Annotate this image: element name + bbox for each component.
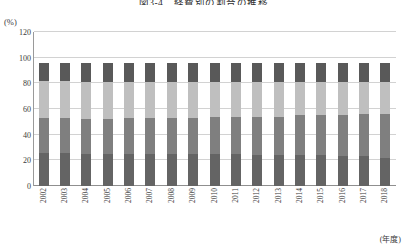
bar-segment-segment-3 xyxy=(252,82,262,117)
bar-segment-segment-1-bottom xyxy=(188,154,198,186)
y-tick-label-60: 60 xyxy=(3,105,31,114)
bar-segment-segment-2 xyxy=(380,114,390,158)
bar-segment-segment-4-top xyxy=(295,63,305,82)
bar-segment-segment-4-top xyxy=(380,63,390,82)
bar-segment-segment-1-bottom xyxy=(167,154,177,186)
bar-segment-segment-1-bottom xyxy=(316,155,326,186)
bar-segment-segment-2 xyxy=(81,119,91,154)
bar-segment-segment-3 xyxy=(60,81,70,118)
bar-segment-segment-2 xyxy=(103,119,113,154)
bar-column xyxy=(124,32,134,186)
y-tick-label-80: 80 xyxy=(3,79,31,88)
bar-segment-segment-1-bottom xyxy=(231,154,241,186)
bar-segment-segment-4-top xyxy=(81,63,91,82)
bar-segment-segment-1-bottom xyxy=(380,158,390,186)
bar-segment-segment-1-bottom xyxy=(210,154,220,186)
bar-segment-segment-3 xyxy=(103,82,113,119)
y-tick-label-100: 100 xyxy=(3,53,31,62)
bar-segment-segment-4-top xyxy=(188,63,198,82)
bar-segment-segment-3 xyxy=(316,82,326,115)
y-axis-ticks: 020406080100120 xyxy=(0,32,31,186)
x-tick-label-2011: 2011 xyxy=(232,188,240,203)
bar-column xyxy=(295,32,305,186)
bar-segment-segment-3 xyxy=(274,82,284,117)
bar-segment-segment-4-top xyxy=(316,63,326,82)
bar-segment-segment-2 xyxy=(145,118,155,154)
bar-segment-segment-3 xyxy=(145,82,155,118)
bar-segment-segment-4-top xyxy=(274,63,284,82)
bar-column xyxy=(210,32,220,186)
bar-segment-segment-4-top xyxy=(145,63,155,82)
bar-segment-segment-4-top xyxy=(252,63,262,82)
bar-segment-segment-3 xyxy=(81,82,91,119)
bar-series-layer xyxy=(33,32,396,186)
bar-segment-segment-2 xyxy=(60,118,70,153)
x-tick-label-2014: 2014 xyxy=(296,188,304,203)
bar-segment-segment-1-bottom xyxy=(338,156,348,186)
x-axis-label: (年度) xyxy=(380,233,401,244)
bar-segment-segment-2 xyxy=(124,118,134,154)
bar-segment-segment-2 xyxy=(359,114,369,156)
bar-segment-segment-3 xyxy=(167,82,177,118)
bar-segment-segment-3 xyxy=(210,82,220,117)
bar-segment-segment-2 xyxy=(188,118,198,154)
bar-segment-segment-4-top xyxy=(167,63,177,82)
bar-segment-segment-4-top xyxy=(359,63,369,82)
y-axis-unit-label: (%) xyxy=(4,17,17,27)
bar-segment-segment-4-top xyxy=(124,63,134,82)
bar-segment-segment-1-bottom xyxy=(274,155,284,186)
bar-column xyxy=(188,32,198,186)
x-tick-label-2018: 2018 xyxy=(381,188,389,203)
x-tick-label-2009: 2009 xyxy=(189,188,197,203)
bar-column xyxy=(359,32,369,186)
x-tick-label-2017: 2017 xyxy=(360,188,368,203)
bar-segment-segment-2 xyxy=(295,115,305,155)
x-tick-label-2004: 2004 xyxy=(82,188,90,203)
x-tick-label-2010: 2010 xyxy=(211,188,219,203)
bar-segment-segment-2 xyxy=(252,117,262,156)
bar-segment-segment-3 xyxy=(380,82,390,114)
chart-container: 図3-4 経費別の割合の推移 (%) 020406080100120 20022… xyxy=(0,0,407,249)
x-tick-label-2012: 2012 xyxy=(253,188,261,203)
bar-segment-segment-1-bottom xyxy=(39,153,49,186)
bar-column xyxy=(338,32,348,186)
bar-segment-segment-2 xyxy=(39,118,49,153)
bar-segment-segment-4-top xyxy=(39,63,49,81)
bar-segment-segment-1-bottom xyxy=(124,154,134,186)
bar-segment-segment-1-bottom xyxy=(60,153,70,186)
bar-segment-segment-3 xyxy=(338,82,348,115)
bar-segment-segment-1-bottom xyxy=(81,154,91,186)
bar-segment-segment-1-bottom xyxy=(103,154,113,186)
bar-segment-segment-3 xyxy=(359,82,369,114)
bar-column xyxy=(103,32,113,186)
y-tick-label-120: 120 xyxy=(3,28,31,37)
bar-segment-segment-4-top xyxy=(338,63,348,82)
bar-segment-segment-1-bottom xyxy=(359,156,369,186)
x-tick-label-2003: 2003 xyxy=(61,188,69,203)
x-tick-label-2015: 2015 xyxy=(317,188,325,203)
bar-segment-segment-2 xyxy=(316,115,326,155)
bar-segment-segment-3 xyxy=(188,82,198,118)
bar-segment-segment-3 xyxy=(231,82,241,117)
x-tick-label-2007: 2007 xyxy=(146,188,154,203)
x-tick-label-2016: 2016 xyxy=(339,188,347,203)
bar-segment-segment-1-bottom xyxy=(295,155,305,186)
y-tick-label-20: 20 xyxy=(3,156,31,165)
bar-column xyxy=(316,32,326,186)
bar-column xyxy=(252,32,262,186)
bar-segment-segment-4-top xyxy=(60,63,70,81)
x-tick-label-2008: 2008 xyxy=(168,188,176,203)
bar-column xyxy=(81,32,91,186)
y-tick-label-40: 40 xyxy=(3,130,31,139)
x-tick-label-2002: 2002 xyxy=(40,188,48,203)
chart-title: 図3-4 経費別の割合の推移 xyxy=(0,0,407,5)
bar-segment-segment-2 xyxy=(167,118,177,154)
x-tick-label-2006: 2006 xyxy=(125,188,133,203)
bar-segment-segment-1-bottom xyxy=(252,155,262,186)
bar-segment-segment-2 xyxy=(231,117,241,154)
bar-segment-segment-4-top xyxy=(103,63,113,82)
bar-column xyxy=(231,32,241,186)
x-axis-ticks: 2002200320042005200620072008200920102011… xyxy=(33,188,396,232)
bar-column xyxy=(274,32,284,186)
bar-segment-segment-3 xyxy=(39,81,49,118)
